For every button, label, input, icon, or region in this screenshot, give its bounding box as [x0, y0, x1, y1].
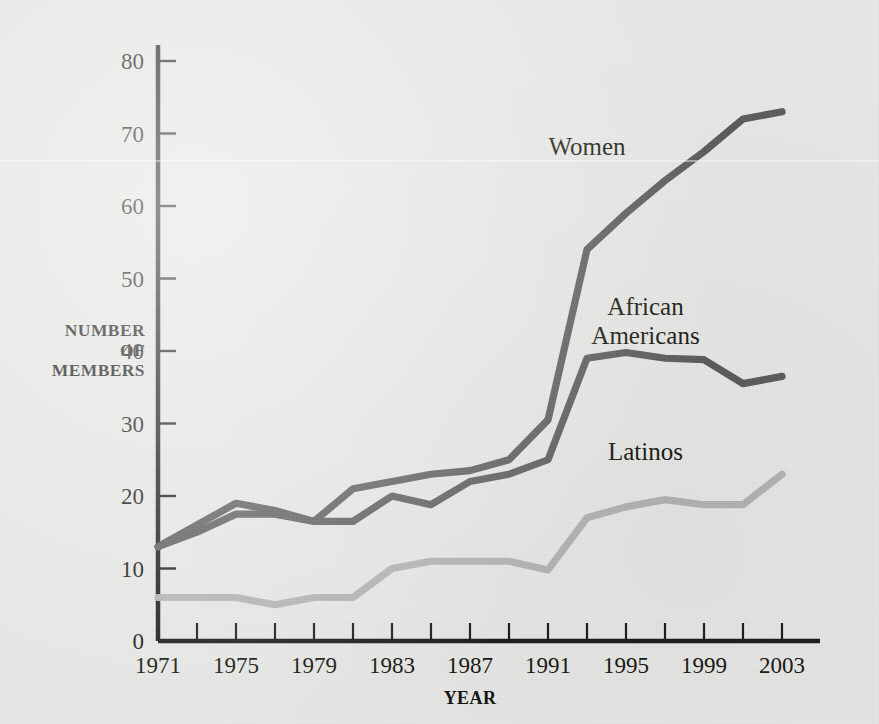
- y-tick-label-0: 0: [133, 629, 145, 654]
- y-tick-label-70: 70: [121, 122, 144, 147]
- y-axis-title-line-3: MEMBERS: [52, 360, 145, 380]
- y-axis-title: NUMBER OF MEMBERS: [52, 320, 145, 380]
- x-tick-label-1975: 1975: [213, 653, 259, 678]
- series-line-latinos: [158, 474, 782, 605]
- x-tick-label-1971: 1971: [135, 653, 181, 678]
- x-tick-label-1987: 1987: [447, 653, 493, 678]
- series-label-african-americans-line-1: African: [607, 293, 684, 320]
- x-axis-title: YEAR: [444, 688, 497, 708]
- x-tick-label-1979: 1979: [291, 653, 337, 678]
- series-label-women: Women: [548, 133, 626, 160]
- x-tick-label-2003: 2003: [759, 653, 805, 678]
- chart-canvas: 01020304050607080 1971197519791983198719…: [0, 0, 879, 724]
- y-tick-label-10: 10: [121, 557, 144, 582]
- y-axis-title-line-2: OF: [120, 340, 145, 360]
- y-tick-label-30: 30: [121, 412, 144, 437]
- line-chart: 01020304050607080 1971197519791983198719…: [0, 0, 879, 724]
- x-axis-tick-labels: 197119751979198319871991199519992003: [135, 653, 805, 678]
- series-label-african-americans-line-2: Americans: [591, 322, 699, 349]
- data-series-group: [158, 112, 782, 605]
- x-tick-label-1983: 1983: [369, 653, 415, 678]
- x-tick-label-1991: 1991: [525, 653, 571, 678]
- x-axis-ticks: [158, 623, 782, 641]
- x-tick-label-1999: 1999: [681, 653, 727, 678]
- series-inline-labels: WomenAfricanAmericansLatinos: [548, 133, 699, 465]
- y-tick-label-50: 50: [121, 267, 144, 292]
- series-label-latinos: Latinos: [608, 438, 683, 465]
- y-tick-label-80: 80: [121, 49, 144, 74]
- y-axis-title-line-1: NUMBER: [65, 320, 145, 340]
- series-line-african-americans: [158, 352, 782, 546]
- y-tick-label-60: 60: [121, 194, 144, 219]
- x-tick-label-1995: 1995: [603, 653, 649, 678]
- y-tick-label-20: 20: [121, 484, 144, 509]
- y-axis-ticks: [158, 61, 176, 569]
